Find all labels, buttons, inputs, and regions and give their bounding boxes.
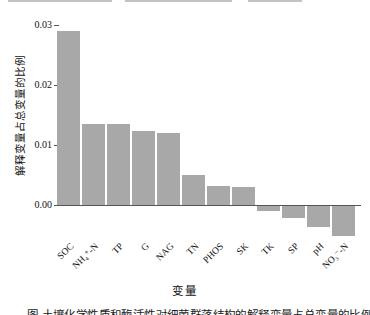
- y-tick-mark: [54, 25, 59, 26]
- bar: [232, 187, 255, 205]
- x-tick-label: SOC: [55, 241, 75, 261]
- bar: [57, 31, 80, 205]
- x-axis-title: 变量: [0, 282, 370, 298]
- x-tick-label: NH₄⁺-N: [71, 241, 101, 271]
- x-tick-label: SP: [286, 241, 301, 256]
- y-tick-label: 0.00: [18, 200, 52, 210]
- bar: [132, 131, 155, 205]
- bar: [207, 186, 230, 205]
- bar: [282, 206, 305, 218]
- bar: [307, 206, 330, 227]
- y-tick-label: 0.01: [18, 140, 52, 150]
- clipped-figure-caption: 图 土壤化学性质和酶活性对细菌群落结构的解释变量占总变量的比例: [27, 306, 370, 315]
- bar: [257, 206, 280, 211]
- x-tick-label: TN: [185, 241, 201, 257]
- bar: [157, 133, 180, 205]
- x-tick-label: SK: [235, 241, 251, 257]
- clipped-top-text-remnant: [8, 0, 112, 2]
- x-tick-label: PHOS: [201, 241, 225, 265]
- x-tick-label: G: [139, 241, 151, 253]
- x-tick-label: NO₃⁻-N: [321, 241, 351, 271]
- bar: [82, 124, 105, 205]
- clipped-top-text-remnant: [125, 0, 232, 2]
- bar: [182, 175, 205, 205]
- x-tick-label: TK: [260, 241, 276, 257]
- y-axis-title: 解释变量占总变量的比例: [12, 55, 27, 176]
- x-tick-label: pH: [310, 241, 325, 256]
- x-tick-label: TP: [111, 241, 126, 256]
- figure-bar-chart: 解释变量占总变量的比例 0.030.020.010.00SOCNH₄⁺-NTPG…: [0, 0, 370, 315]
- y-tick-label: 0.03: [18, 20, 52, 30]
- bar: [332, 206, 355, 236]
- y-tick-label: 0.02: [18, 80, 52, 90]
- bar: [107, 124, 130, 205]
- x-tick-label: NAG: [154, 241, 176, 263]
- clipped-top-text-remnant: [248, 0, 302, 2]
